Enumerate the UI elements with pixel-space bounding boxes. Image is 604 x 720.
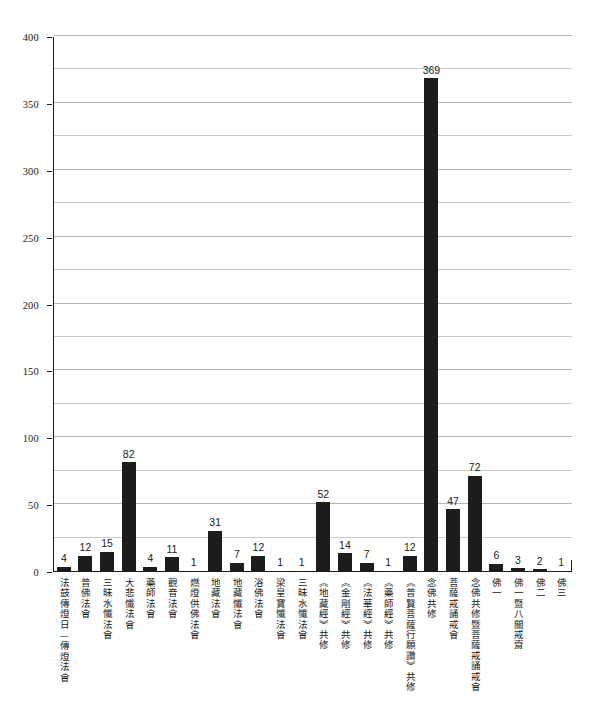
bar[interactable] [316,502,330,572]
y-axis-tick-label: 0 [34,567,47,578]
x-axis-tick-label: 藥師法會 [145,578,155,620]
bar[interactable] [360,563,374,572]
bar-value-label: 4 [61,553,67,564]
bar-slot: 6 [486,37,508,572]
bar-slot: 7 [226,37,248,572]
bar-value-label: 3 [515,555,521,566]
bar-slot: 12 [248,37,270,572]
x-axis-label-slot: 《藥師經》共修 [377,578,399,651]
x-axis-label-slot: 梁皇寶懺法會 [269,578,291,640]
bar-slot: 11 [161,37,183,572]
x-axis-tick-label: 佛二 [535,578,545,599]
bar-slot: 72 [464,37,486,572]
x-axis-tick-label: 梁皇寶懺法會 [275,578,285,640]
bar[interactable] [381,571,395,573]
bar[interactable] [273,571,287,573]
x-axis-tick-label: 三昧水懺法會 [102,578,112,640]
bar[interactable] [295,571,309,573]
bar[interactable] [403,556,417,572]
bar-value-label: 1 [385,557,391,568]
bar-value-label: 12 [80,542,92,553]
y-axis-tick-label: 200 [23,299,47,310]
bar-slot: 47 [442,37,464,572]
x-axis-label-slot: 佛三 [550,578,572,599]
x-axis-label-slot: 三昧水懺法會 [291,578,313,640]
y-axis-tick-label: 350 [23,98,47,109]
y-axis-tick-mark [47,305,52,306]
x-axis-label-slot: 念佛共修暨菩薩戒誦戒會 [464,578,486,692]
x-axis-label-slot: 《地藏經》共修 [313,578,335,651]
bar[interactable] [230,563,244,572]
bar-slot: 2 [529,37,551,572]
bar-slot: 15 [96,37,118,572]
bar-value-label: 2 [537,556,543,567]
bar-slot: 4 [140,37,162,572]
y-axis: 050100150200250300350400 [0,37,47,572]
bar-value-label: 6 [493,550,499,561]
bar-slot: 1 [291,37,313,572]
bar[interactable] [338,553,352,572]
bar-slot: 12 [399,37,421,572]
bar[interactable] [533,569,547,572]
x-axis-label-slot: 大悲懺法會 [118,578,140,630]
bar[interactable] [468,476,482,572]
x-axis-label-slot: 三昧水懺法會 [96,578,118,640]
x-axis-tick-label: 《地藏經》共修 [318,578,328,651]
x-axis-tick-label: 佛三 [556,578,566,599]
bar[interactable] [251,556,265,572]
x-axis-label-slot: 佛二 [529,578,551,599]
bar[interactable] [489,564,503,572]
bar-value-label: 31 [209,517,221,528]
bar-slot: 1 [377,37,399,572]
bar[interactable] [511,568,525,572]
x-axis-tick-label: 三昧水懺法會 [297,578,307,640]
bar[interactable] [424,78,438,572]
bar-value-label: 82 [123,449,135,460]
bar[interactable] [187,571,201,573]
x-axis-tick-label: 念佛共修暨菩薩戒誦戒會 [470,578,480,692]
bar[interactable] [143,567,157,572]
bar-value-label: 4 [147,553,153,564]
bar-slot: 12 [75,37,97,572]
bar-value-label: 7 [364,549,370,560]
bar-slot: 1 [550,37,572,572]
bar[interactable] [122,462,136,572]
bar-value-label: 1 [558,557,564,568]
bar[interactable] [554,571,568,573]
bar-value-label: 52 [317,489,329,500]
y-axis-tick-label: 300 [23,165,47,176]
y-axis-tick-label: 100 [23,433,47,444]
x-axis-label-slot: 普佛法會 [75,578,97,620]
bar-slot: 31 [204,37,226,572]
y-axis-tick-mark [47,438,52,439]
bar[interactable] [100,552,114,572]
x-axis-label-slot: 地藏法會 [204,578,226,620]
x-axis-tick-label: 佛一 [491,578,501,599]
bar-value-label: 1 [299,557,305,568]
bar[interactable] [165,557,179,572]
bar-slot: 7 [356,37,378,572]
y-axis-tick-mark [47,171,52,172]
y-axis-tick-label: 400 [23,32,47,43]
x-axis-tick-label: 地藏法會 [210,578,220,620]
bar-value-label: 12 [404,542,416,553]
bar-value-label: 369 [423,65,441,76]
bar-slot: 3 [507,37,529,572]
x-axis-tick-label: 《普賢菩薩行願讚》共修 [405,578,415,692]
y-axis-tick-mark [47,371,52,372]
bar-value-label: 14 [339,540,351,551]
bar[interactable] [446,509,460,572]
x-axis-label-slot: 佛一暨八關戒齋 [507,578,529,651]
bar[interactable] [78,556,92,572]
x-axis-label-slot: 燃燈供佛法會 [183,578,205,640]
bar-slot: 1 [183,37,205,572]
x-axis-label-slot: 佛一 [486,578,508,599]
bars-layer: 4121582411131712115214711236947726321 [53,37,572,572]
bar-slot: 369 [421,37,443,572]
bar[interactable] [57,567,71,572]
bar-value-label: 7 [234,549,240,560]
bar[interactable] [208,531,222,572]
y-axis-tick-mark [47,37,52,38]
y-axis-tick-label: 250 [23,232,47,243]
bar-value-label: 15 [101,538,113,549]
